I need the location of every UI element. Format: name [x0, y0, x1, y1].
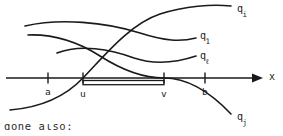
cropped-caption-text: done also: — [4, 124, 73, 136]
figure-canvas: x a u v b qi q1 qℓ qj done also: — [0, 0, 283, 136]
curve-label-q1: q1 — [200, 31, 211, 44]
x-axis-arrowhead — [252, 74, 263, 83]
tick-label-v: v — [161, 89, 167, 99]
curve-label-qi-subscript: i — [243, 10, 248, 19]
interval-bar-uv — [83, 81, 164, 85]
curve-qi — [10, 5, 231, 110]
cropped-caption-span: done also: — [4, 124, 73, 132]
curve-label-qj-subscript: j — [243, 118, 248, 127]
curve-q1 — [25, 22, 196, 40]
curve-label-q-ell: qℓ — [200, 51, 210, 64]
curve-label-q-ell-subscript: ℓ — [206, 57, 210, 66]
curve-label-qj: qj — [237, 112, 248, 125]
tick-label-b: b — [202, 87, 208, 97]
curve-label-q1-subscript: 1 — [206, 37, 211, 46]
tick-label-a: a — [45, 87, 51, 97]
x-axis-label: x — [269, 72, 275, 82]
curve-q-ell — [57, 48, 196, 62]
tick-label-u: u — [80, 89, 86, 99]
curve-label-qi: qi — [237, 4, 248, 17]
curve-qj — [28, 35, 231, 114]
